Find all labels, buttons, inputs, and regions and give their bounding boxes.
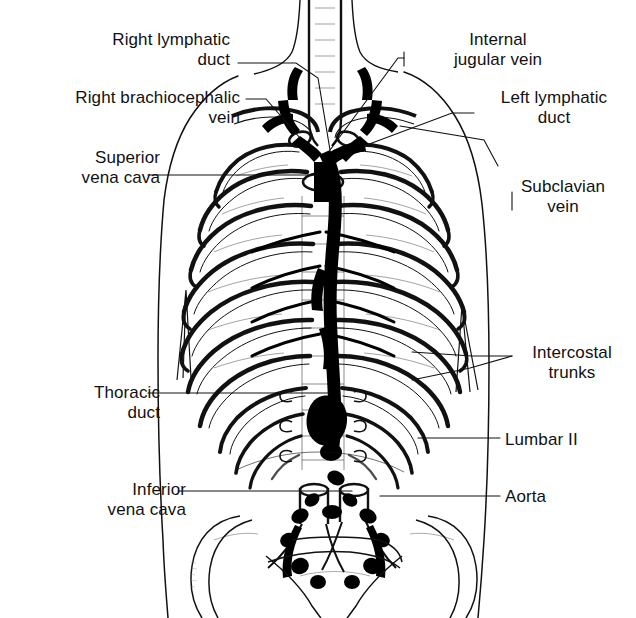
label-internal-jugular-vein: Internal jugular vein [418,30,578,70]
label-inferior-vena-cava: Inferior vena cava [36,480,186,520]
lymph-nodes [278,468,392,589]
label-lumbar-ii: Lumbar II [505,430,625,450]
label-thoracic-duct: Thoracic duct [18,383,160,423]
leader-subclavian-vein [400,126,498,166]
pelvis [191,516,477,618]
cisterna-chyli [306,396,347,462]
label-left-lymphatic-duct: Left lymphatic duct [479,88,629,128]
label-subclavian-vein: Subclavian vein [503,177,623,217]
label-right-brachiocephalic-vein: Right brachiocephalic vein [18,88,240,128]
label-intercostal-trunks: Intercostal trunks [513,343,631,383]
pelvis-shading [214,533,454,576]
label-superior-vena-cava: Superior vena cava [18,148,160,188]
label-aorta: Aorta [505,487,625,507]
label-right-lymphatic-duct: Right lymphatic duct [30,30,230,70]
leader-intercostal-trunks-a [412,352,512,356]
